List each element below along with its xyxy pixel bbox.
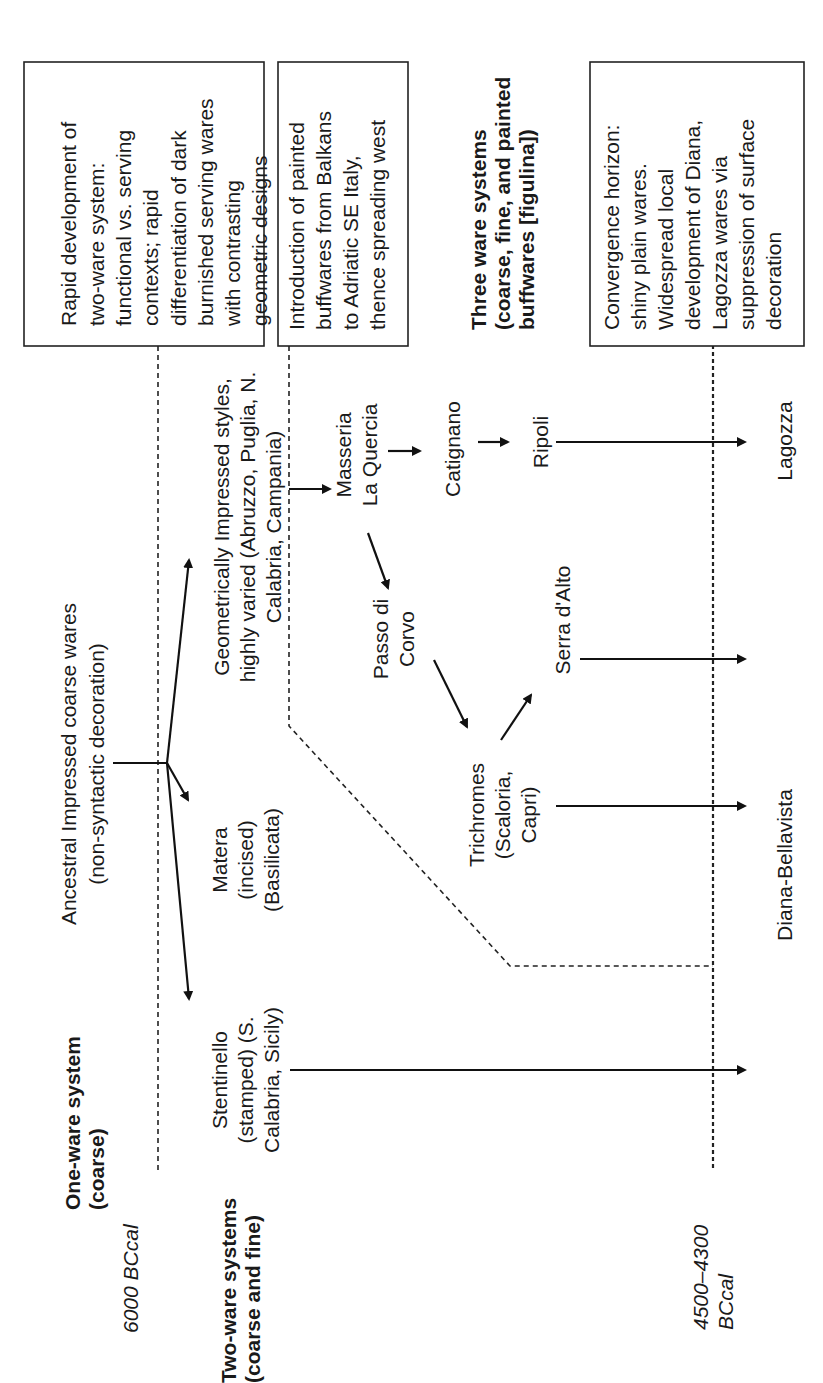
svg-text:Catignano: Catignano [441, 401, 464, 497]
node-diana-bellavista: Diana-Bellavista [773, 789, 796, 941]
svg-text:Two-ware systems: Two-ware systems [217, 1198, 240, 1383]
node-trichromes: Trichromes (Scaloria, Capri) [465, 763, 540, 867]
svg-text:Lagozza: Lagozza [773, 401, 796, 481]
node-passo-di-corvo: Passo di Corvo [369, 599, 418, 680]
node-ancestral-impressed: Ancestral Impressed coarse wares (non-sy… [57, 603, 108, 925]
svg-text:(non-syntactic decoration): (non-syntactic decoration) [85, 643, 108, 885]
label-three-ware-systems: Three ware systems (coarse, fine, and pa… [467, 77, 538, 330]
box1-line: with contrasting [221, 180, 244, 327]
svg-text:Capri): Capri) [517, 786, 540, 843]
svg-text:Matera: Matera [208, 827, 231, 893]
svg-text:(coarse, fine, and painted: (coarse, fine, and painted [491, 77, 514, 330]
node-ripoli: Ripoli [529, 416, 552, 469]
node-lagozza: Lagozza [773, 401, 796, 481]
svg-text:(stamped) (S.: (stamped) (S. [234, 1016, 257, 1143]
node-stentinello: Stentinello (stamped) (S. Calabria, Sici… [208, 1007, 283, 1153]
box3-line: decoration [762, 232, 785, 330]
label-two-ware-systems: Two-ware systems (coarse and fine) [217, 1198, 264, 1383]
arrow-to-geometric [167, 560, 189, 763]
box3-line: development of Diana, [681, 120, 704, 330]
node-geometric-impressed: Geometrically Impressed styles, highly v… [210, 372, 285, 682]
svg-text:Diana-Bellavista: Diana-Bellavista [773, 789, 796, 941]
svg-text:One-ware system: One-ware system [61, 1036, 84, 1210]
svg-text:Passo di: Passo di [369, 599, 392, 680]
box1-line: burnished serving wares [194, 98, 217, 326]
node-matera: Matera (incised) (Basilicata) [208, 808, 283, 912]
node-serra-d-alto: Serra d'Alto [551, 565, 574, 674]
arrow-trichromes-to-serra [501, 695, 531, 740]
box3-line: shiny plain wares. [627, 163, 650, 330]
svg-text:Masseria: Masseria [332, 412, 355, 498]
svg-text:La Quercia: La Quercia [358, 403, 381, 506]
node-catignano: Catignano [441, 401, 464, 497]
box3-line: Widespread local [654, 169, 677, 330]
arrow-masseria-to-passo [368, 533, 388, 588]
time-marker-6000bc: 6000 BCcal [119, 1223, 142, 1333]
arrows [113, 442, 745, 1070]
svg-text:(Scaloria,: (Scaloria, [491, 771, 514, 860]
box1-line: functional vs. serving [112, 130, 135, 326]
label-one-ware-system: One-ware system (coarse) [61, 1036, 108, 1210]
svg-text:Serra d'Alto: Serra d'Alto [551, 565, 574, 674]
svg-text:Ancestral Impressed coarse war: Ancestral Impressed coarse wares [57, 603, 80, 925]
svg-text:buffwares [figulina]): buffwares [figulina]) [515, 129, 538, 330]
svg-text:Calabria, Campania): Calabria, Campania) [262, 431, 285, 624]
svg-text:(coarse and fine): (coarse and fine) [241, 1215, 264, 1383]
box2-line: to Adriatic SE Italy, [339, 155, 362, 330]
svg-text:Three ware systems: Three ware systems [467, 129, 490, 330]
svg-text:(Basilicata): (Basilicata) [260, 808, 283, 912]
svg-text:(incised): (incised) [234, 820, 257, 899]
svg-text:Geometrically Impressed styles: Geometrically Impressed styles, [210, 378, 233, 676]
svg-text:(coarse): (coarse) [85, 1128, 108, 1210]
box2-line: thence spreading west [366, 120, 389, 330]
pottery-ware-systems-diagram: Rapid development of two-ware system: fu… [0, 0, 823, 1383]
svg-text:Ripoli: Ripoli [529, 416, 552, 469]
svg-text:Trichromes: Trichromes [465, 763, 488, 867]
svg-text:Corvo: Corvo [395, 611, 418, 667]
svg-text:Calabria, Sicily): Calabria, Sicily) [260, 1007, 283, 1153]
box3-line: Lagozza wares via [708, 156, 731, 330]
box1-line: contexts; rapid [139, 189, 162, 326]
svg-text:Stentinello: Stentinello [208, 1031, 231, 1129]
svg-text:BCcal: BCcal [714, 1273, 737, 1330]
box1-line: Rapid development of [57, 122, 80, 326]
arrow-passo-to-trichromes [434, 660, 467, 727]
box1-line: differentiation of dark [167, 130, 190, 326]
box3-line: Convergence horizon: [600, 125, 623, 330]
node-masseria-la-quercia: Masseria La Quercia [332, 403, 381, 506]
arrow-to-stentinello [167, 763, 189, 999]
box2-line: Introduction of painted [285, 122, 308, 330]
box1-line: geometric designs [248, 156, 271, 326]
svg-text:4500–4300: 4500–4300 [689, 1225, 712, 1330]
time-marker-4500-4300bc: 4500–4300 BCcal [689, 1225, 737, 1330]
box2-line: buffwares from Balkans [312, 111, 335, 330]
box1-line: two-ware system: [85, 163, 108, 326]
svg-text:highly varied (Abruzzo, Puglia: highly varied (Abruzzo, Puglia, N. [236, 372, 259, 682]
box3-line: suppression of surface [735, 119, 758, 330]
